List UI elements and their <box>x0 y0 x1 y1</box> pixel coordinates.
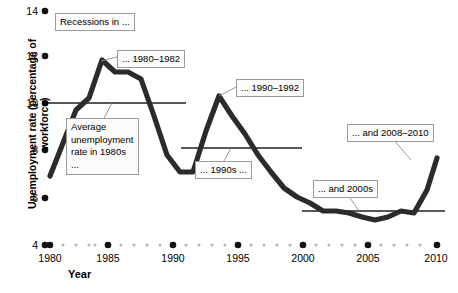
x-tick-dot-1995 <box>235 242 242 249</box>
chart-page: Unemployment rate (percentage of workfor… <box>0 0 458 293</box>
x-tick-label-2000: 2000 <box>283 252 323 264</box>
annotation-recession-1980-1982: ... 1980–1982 <box>117 50 185 68</box>
x-tick-label-1990: 1990 <box>153 252 193 264</box>
annotation-recession-2008-2010: ... and 2008–2010 <box>347 124 434 142</box>
x-tick-label-2010: 2010 <box>416 252 456 264</box>
x-tick-dot-1985 <box>105 242 112 249</box>
x-tick-label-1980: 1980 <box>30 252 70 264</box>
annotation-average-2000s: ... and 2000s <box>313 180 378 198</box>
annotation-average-1980s: Average unemployment rate in 1980s ... <box>66 118 139 175</box>
x-tick-dot-1990 <box>170 242 177 249</box>
x-tick-dot-2010 <box>434 242 441 249</box>
y-tick-label-6: 6 <box>20 192 38 204</box>
y-tick-label-14: 14 <box>20 5 38 17</box>
annotation-recession-1990-1992: ... 1990–1992 <box>236 79 304 97</box>
x-tick-label-1995: 1995 <box>218 252 258 264</box>
y-tick-label-4: 4 <box>20 239 38 251</box>
x-tick-label-2005: 2005 <box>348 252 388 264</box>
x-tick-label-1985: 1985 <box>88 252 128 264</box>
x-axis-title: Year <box>68 268 91 280</box>
x-tick-dot-1980 <box>47 242 54 249</box>
annotation-average-1990s: ... 1990s ... <box>195 161 252 179</box>
annotation-recessions: Recessions in ... <box>55 13 135 31</box>
y-tick-label-12: 12 <box>20 50 38 62</box>
y-tick-label-8: 8 <box>20 144 38 156</box>
x-tick-dot-2000 <box>300 242 307 249</box>
y-tick-label-10: 10 <box>20 97 38 109</box>
x-tick-dot-2005 <box>365 242 372 249</box>
